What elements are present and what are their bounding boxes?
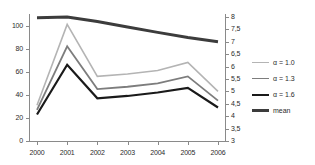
legend-swatch <box>252 78 269 79</box>
series-line <box>37 65 218 115</box>
legend-item[interactable]: α = 1.3 <box>252 72 314 85</box>
legend-swatch <box>252 109 269 112</box>
legend-label: α = 1.3 <box>273 75 295 82</box>
series-line <box>37 46 218 110</box>
legend-item[interactable]: α = 1.6 <box>252 88 314 101</box>
legend-label: α = 1.0 <box>273 59 295 66</box>
chart-container: 020406080100 33,544,555,566,577,58 20002… <box>0 0 315 165</box>
chart-legend: α = 1.0α = 1.3α = 1.6mean <box>252 56 314 120</box>
legend-label: mean <box>273 107 291 114</box>
series-line <box>37 17 218 42</box>
legend-item[interactable]: mean <box>252 104 314 117</box>
legend-swatch <box>252 62 269 63</box>
legend-item[interactable]: α = 1.0 <box>252 56 314 69</box>
legend-label: α = 1.6 <box>273 91 295 98</box>
legend-swatch <box>252 94 269 96</box>
